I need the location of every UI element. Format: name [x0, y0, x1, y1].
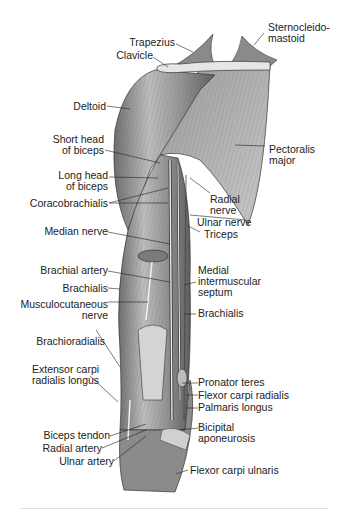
label-trapezius: Trapezius [129, 37, 175, 48]
label-sternocleidomastoid: Sternocleido- mastoid [268, 22, 330, 44]
label-ulnar-artery: Ulnar artery [59, 456, 114, 467]
label-medial-intermuscular-septum: Medial intermuscular septum [198, 265, 261, 298]
label-clavicle: Clavicle [116, 50, 153, 61]
label-brachial-artery: Brachial artery [40, 265, 108, 276]
label-musculocutaneous-nerve: Musculocutaneous nerve [20, 299, 108, 321]
label-median-nerve: Median nerve [44, 226, 108, 237]
label-pronator-teres: Pronator teres [198, 377, 265, 388]
label-triceps: Triceps [204, 229, 238, 240]
label-long-head-of-biceps: Long head of biceps [58, 170, 108, 192]
label-ulnar-nerve: Ulnar nerve [197, 217, 251, 228]
label-biceps-tendon: Biceps tendon [43, 430, 110, 441]
label-pectoralis-major: Pectoralis major [269, 144, 315, 166]
label-palmaris-longus: Palmaris longus [198, 402, 273, 413]
label-brachioradialis: Brachioradialis [36, 336, 105, 347]
label-flexor-carpi-ulnaris: Flexor carpi ulnaris [190, 465, 279, 476]
label-deltoid: Deltoid [73, 101, 106, 112]
bottom-divider [20, 508, 328, 509]
label-radial-nerve: Radial nerve [210, 194, 240, 216]
label-extensor-carpi-radialis-longus: Extensor carpi radialis longus [32, 364, 99, 386]
label-short-head-of-biceps: Short head of biceps [53, 134, 104, 156]
label-flexor-carpi-radialis: Flexor carpi radialis [198, 390, 289, 401]
label-radial-artery: Radial artery [42, 443, 102, 454]
label-bicipital-aponeurosis: Bicipital aponeurosis [198, 422, 255, 444]
label-coracobrachialis: Coracobrachialis [30, 198, 108, 209]
label-brachialis-left: Brachialis [62, 283, 108, 294]
label-brachialis-right: Brachialis [198, 308, 244, 319]
